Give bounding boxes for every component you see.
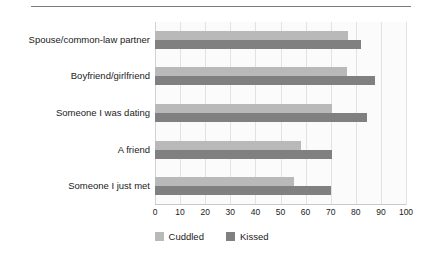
category-label: Boyfriend/girlfriend xyxy=(2,70,150,81)
x-tick-label: 70 xyxy=(326,207,335,217)
bar-cuddled xyxy=(155,177,294,186)
chart-legend: CuddledKissed xyxy=(0,231,423,242)
category-label: Someone I just met xyxy=(2,180,150,191)
bar-group xyxy=(155,177,406,196)
bar-kissed xyxy=(155,76,375,85)
x-tick-label: 100 xyxy=(399,207,413,217)
bar-kissed xyxy=(155,186,331,195)
legend-label: Kissed xyxy=(240,231,269,242)
category-label: Spouse/common-law partner xyxy=(2,34,150,45)
x-tick-label: 40 xyxy=(251,207,260,217)
x-tick-label: 60 xyxy=(301,207,310,217)
x-tick-label: 20 xyxy=(200,207,209,217)
category-label: Someone I was dating xyxy=(2,107,150,118)
bar-group xyxy=(155,104,406,123)
legend-item-cuddled[interactable]: Cuddled xyxy=(155,231,204,242)
bar-cuddled xyxy=(155,141,301,150)
legend-swatch-icon xyxy=(155,232,164,241)
gridline-100 xyxy=(406,22,407,205)
legend-item-kissed[interactable]: Kissed xyxy=(226,231,269,242)
legend-swatch-icon xyxy=(226,232,235,241)
bar-cuddled xyxy=(155,67,347,76)
x-axis-line xyxy=(155,204,406,205)
x-tick-label: 80 xyxy=(351,207,360,217)
bar-cuddled xyxy=(155,104,332,113)
bar-group xyxy=(155,31,406,50)
x-tick-label: 90 xyxy=(376,207,385,217)
bar-cuddled xyxy=(155,31,348,40)
legend-label: Cuddled xyxy=(169,231,204,242)
bar-group xyxy=(155,67,406,86)
bar-group xyxy=(155,141,406,160)
x-tick-label: 10 xyxy=(175,207,184,217)
x-tick-label: 50 xyxy=(276,207,285,217)
chart-figure: Spouse/common-law partnerBoyfriend/girlf… xyxy=(0,0,423,256)
x-tick-label: 0 xyxy=(153,207,158,217)
x-axis-tick-labels: 0102030405060708090100 xyxy=(155,207,406,221)
category-axis-labels: Spouse/common-law partnerBoyfriend/girlf… xyxy=(0,22,150,205)
bar-kissed xyxy=(155,150,332,159)
bar-kissed xyxy=(155,40,361,49)
plot-area xyxy=(155,22,406,205)
bar-kissed xyxy=(155,113,367,122)
x-tick-label: 30 xyxy=(226,207,235,217)
title-divider xyxy=(31,6,411,7)
category-label: A friend xyxy=(2,144,150,155)
